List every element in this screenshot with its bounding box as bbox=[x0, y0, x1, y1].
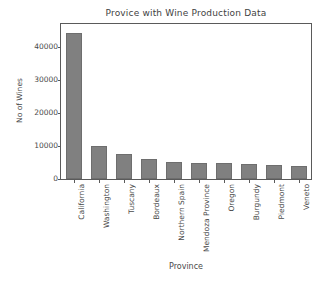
bar[interactable] bbox=[91, 146, 107, 179]
x-tick-mark bbox=[249, 179, 250, 183]
x-tick-mark bbox=[74, 179, 75, 183]
x-tick-label: Veneto bbox=[302, 184, 311, 210]
bar[interactable] bbox=[291, 166, 307, 179]
bar[interactable] bbox=[216, 163, 232, 179]
bar-slot bbox=[261, 24, 286, 179]
bar-slot bbox=[186, 24, 211, 179]
chart-figure: Provice with Wine Production Data No of … bbox=[0, 0, 333, 288]
y-tick-label: 20000 bbox=[18, 109, 58, 117]
y-tick-label: 40000 bbox=[18, 43, 58, 51]
y-axis-label: No of Wines bbox=[15, 55, 24, 145]
x-tick-mark bbox=[199, 179, 200, 183]
bar-slot bbox=[286, 24, 311, 179]
x-tick-label: Oregon bbox=[227, 184, 236, 212]
x-tick-label: Northern Spain bbox=[177, 184, 186, 241]
x-tick-label: Mendoza Province bbox=[202, 184, 211, 252]
bar-slot bbox=[236, 24, 261, 179]
x-tick-mark bbox=[274, 179, 275, 183]
y-tick-label: 30000 bbox=[18, 76, 58, 84]
plot-area: No of Wines 010000200003000040000 Califo… bbox=[60, 23, 312, 180]
bar[interactable] bbox=[241, 164, 257, 179]
x-tick-mark bbox=[224, 179, 225, 183]
x-tick-label: Washington bbox=[102, 184, 111, 228]
bar-slot bbox=[61, 24, 86, 179]
x-tick-label: Burgundy bbox=[252, 184, 261, 220]
y-tick-label: 10000 bbox=[18, 142, 58, 150]
bar[interactable] bbox=[166, 162, 182, 179]
x-tick-mark bbox=[149, 179, 150, 183]
bar[interactable] bbox=[116, 154, 132, 179]
bar[interactable] bbox=[141, 159, 157, 179]
x-tick-mark bbox=[99, 179, 100, 183]
bar[interactable] bbox=[266, 165, 282, 179]
bar-slot bbox=[161, 24, 186, 179]
x-tick-label: Piedmont bbox=[277, 184, 286, 219]
x-axis-label: Province bbox=[60, 262, 312, 271]
bar-slot bbox=[86, 24, 111, 179]
x-tick-label: Tuscany bbox=[127, 184, 136, 214]
y-tick-mark bbox=[58, 179, 61, 180]
y-tick-label: 0 bbox=[18, 175, 58, 183]
bar-slot bbox=[211, 24, 236, 179]
x-tick-label: Bordeaux bbox=[152, 184, 161, 220]
bar[interactable] bbox=[66, 33, 82, 179]
bar-slot bbox=[111, 24, 136, 179]
bars-layer bbox=[61, 24, 311, 179]
bar[interactable] bbox=[191, 163, 207, 179]
x-tick-label: California bbox=[77, 184, 86, 220]
x-tick-mark bbox=[124, 179, 125, 183]
chart-title: Provice with Wine Production Data bbox=[60, 8, 312, 18]
x-tick-mark bbox=[174, 179, 175, 183]
bar-slot bbox=[136, 24, 161, 179]
x-tick-mark bbox=[299, 179, 300, 183]
